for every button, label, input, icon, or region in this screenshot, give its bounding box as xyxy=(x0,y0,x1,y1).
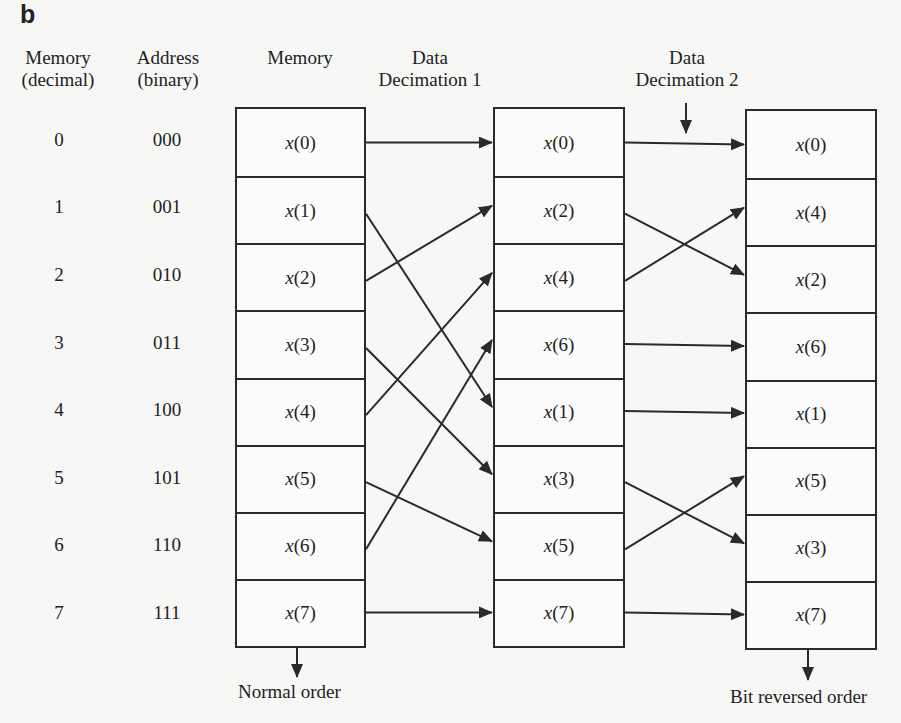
connection-arrows xyxy=(0,0,901,723)
data-flow-arrow xyxy=(366,348,492,474)
data-flow-arrow xyxy=(625,612,744,614)
bit-reversed-order-label: Bit reversed order xyxy=(730,686,867,708)
normal-order-label: Normal order xyxy=(238,681,341,703)
data-flow-arrow xyxy=(625,344,744,346)
data-flow-arrow xyxy=(625,143,744,145)
data-flow-arrow xyxy=(625,411,744,413)
data-flow-arrow xyxy=(366,482,492,541)
data-flow-arrow xyxy=(625,208,744,281)
data-flow-arrow xyxy=(625,476,744,549)
data-flow-arrow xyxy=(366,273,492,415)
data-flow-arrow xyxy=(366,340,492,549)
